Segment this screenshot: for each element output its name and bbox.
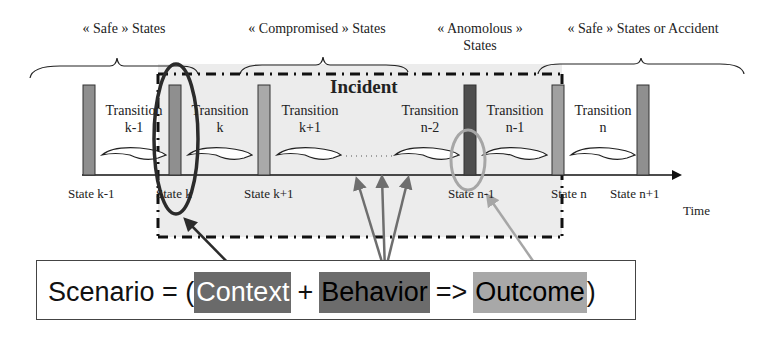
transition-label-line2: k+1 — [273, 119, 347, 136]
formula-implies: => — [430, 272, 474, 312]
group-label-compromised: « Compromised » States — [232, 20, 402, 37]
formula-prefix: Scenario = ( — [48, 272, 194, 312]
transition-label-line1: Transition — [478, 102, 552, 119]
state-label-n-plus-1: State n+1 — [610, 186, 660, 202]
formula-context: Context — [194, 272, 291, 313]
group-label-safe: « Safe » States — [78, 20, 170, 37]
transition-label-line1: Transition — [273, 102, 347, 119]
transition-label-line2: n-2 — [393, 119, 467, 136]
time-axis-label: Time — [683, 203, 710, 219]
transition-label-line1: Transition — [183, 102, 257, 119]
group-braces — [30, 57, 744, 78]
scenario-diagram: « Safe » States « Compromised » States «… — [0, 0, 761, 344]
behavior-arrow-2 — [382, 178, 385, 272]
state-label-n: State n — [551, 186, 587, 202]
transition-label-line2: k — [183, 119, 257, 136]
transition-label: Transition n — [566, 102, 640, 136]
transition-label-line1: Transition — [97, 102, 171, 119]
formula-behavior: Behavior — [319, 272, 430, 313]
transition-label-line2: n — [566, 119, 640, 136]
state-label-n-minus-1: State n-1 — [448, 186, 495, 202]
behavior-arrow-3 — [385, 179, 408, 272]
incident-title: Incident — [330, 76, 398, 98]
scenario-formula: Scenario = ( Context + Behavior => Outco… — [48, 270, 596, 314]
formula-outcome: Outcome — [473, 272, 587, 313]
state-label-k-plus-1: State k+1 — [244, 186, 294, 202]
behavior-arrow-1 — [357, 180, 385, 272]
group-label-anomalous-line2: States — [425, 37, 535, 54]
group-label-safe-or-accident: « Safe » States or Accident — [548, 20, 738, 37]
transition-label: Transition k-1 — [97, 102, 171, 136]
transition-label-line1: Transition — [393, 102, 467, 119]
transition-label-line1: Transition — [566, 102, 640, 119]
state-label-k-minus-1: State k-1 — [68, 186, 115, 202]
formula-plus: + — [291, 272, 319, 312]
state-label-k: State k — [156, 186, 192, 202]
group-label-anomalous-line1: « Anomolous » — [425, 20, 535, 37]
transition-label-line2: n-1 — [478, 119, 552, 136]
transition-label: Transition n-2 — [393, 102, 467, 136]
transition-label-line2: k-1 — [97, 119, 171, 136]
transition-label: Transition k+1 — [273, 102, 347, 136]
transition-label: Transition n-1 — [478, 102, 552, 136]
formula-suffix: ) — [587, 272, 596, 312]
transition-label: Transition k — [183, 102, 257, 136]
